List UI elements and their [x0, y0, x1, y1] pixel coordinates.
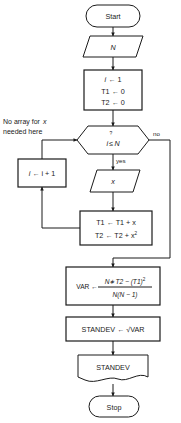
node-accumulate: T1 ← T1 + x T2 ← T2 + x2	[80, 211, 152, 245]
node-variance-numerator-text: N∗T2 − (T1)	[105, 278, 143, 286]
node-accumulate-line2-base: T2 ← T2 + x	[95, 231, 135, 240]
node-standev: STANDEV ← √VAR	[66, 317, 160, 341]
node-input-x: x	[90, 170, 140, 192]
node-input-n: N	[83, 36, 143, 57]
annotation-line-2: needed here	[3, 128, 42, 135]
annotation-line-1-text: No array for	[3, 118, 41, 126]
node-decision-expression: i≤N	[106, 139, 120, 148]
node-accumulate-line2: T2 ← T2 + x2	[95, 231, 138, 240]
node-increment-text: i← i + 1	[29, 169, 56, 178]
node-variance: VAR ← N∗T2 − (T1)2 N(N − 1)	[66, 267, 160, 305]
annotation-line-1: No array forx	[3, 118, 47, 126]
node-increment-rest: ← i + 1	[32, 169, 55, 178]
node-decision-question-mark: ?	[110, 130, 113, 136]
flowchart-canvas: Start N i← 1 T1 ← 0 T2 ← 0 ? i≤N yes no	[0, 0, 181, 423]
node-decision-op: ≤	[109, 139, 113, 148]
node-decision: ? i≤N	[77, 126, 149, 154]
node-input-n-label: N	[110, 43, 116, 52]
node-decision-bound: N	[114, 139, 120, 148]
node-accumulate-line1: T1 ← T1 + x	[96, 218, 136, 227]
node-init: i← 1 T1 ← 0 T2 ← 0	[84, 70, 142, 110]
node-init-line3: T2 ← 0	[101, 98, 125, 107]
node-start-label: Start	[105, 12, 120, 21]
node-variance-numerator: N∗T2 − (T1)2	[105, 277, 146, 286]
node-output-label: STANDEV	[96, 363, 130, 372]
node-variance-assign: VAR ←	[76, 283, 98, 290]
node-accumulate-line2-exponent: 2	[135, 231, 138, 236]
edge-label-yes: yes	[116, 157, 126, 164]
node-output: STANDEV	[78, 355, 148, 381]
annotation-note: No array forx needed here	[3, 118, 47, 135]
node-increment: i← i + 1	[18, 159, 66, 187]
flowchart-diagram: Start N i← 1 T1 ← 0 T2 ← 0 ? i≤N yes no	[0, 0, 181, 423]
node-start: Start	[86, 5, 140, 27]
node-standev-text: STANDEV ← √VAR	[82, 325, 145, 334]
node-stop-label: Stop	[107, 403, 122, 412]
edge-label-no: no	[153, 130, 160, 137]
node-init-line1-rest: ← 1	[108, 75, 121, 84]
edge-increment-to-decision	[42, 140, 77, 159]
node-variance-denominator: N(N − 1)	[112, 291, 137, 299]
annotation-line-1-italic: x	[42, 118, 47, 125]
node-init-line2: T1 ← 0	[101, 87, 125, 96]
edge-accumulate-to-increment	[42, 187, 80, 228]
node-input-x-label: x	[110, 177, 115, 186]
node-stop: Stop	[89, 396, 139, 417]
node-variance-numerator-exponent: 2	[143, 277, 146, 282]
